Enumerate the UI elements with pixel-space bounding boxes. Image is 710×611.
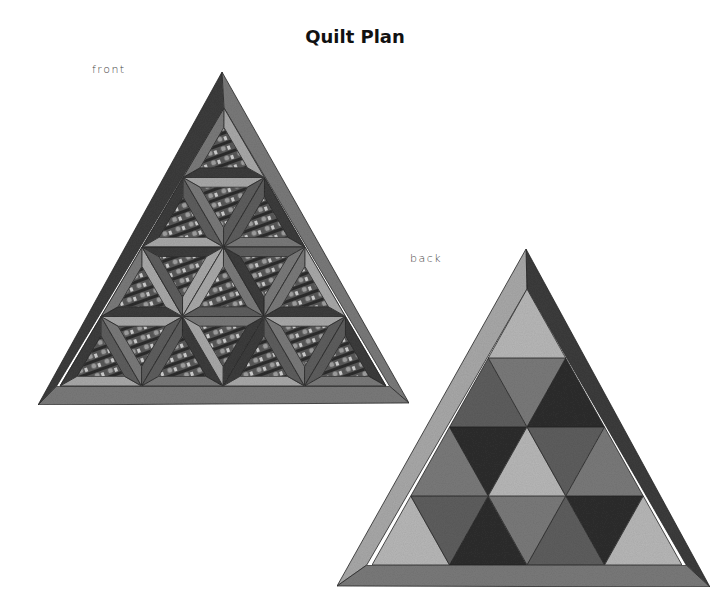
bottom-border-strip [38,386,409,405]
quilt-diagram [0,0,710,611]
back-quilt [337,249,710,587]
bottom-border-strip [337,565,710,587]
front-quilt [38,72,409,405]
